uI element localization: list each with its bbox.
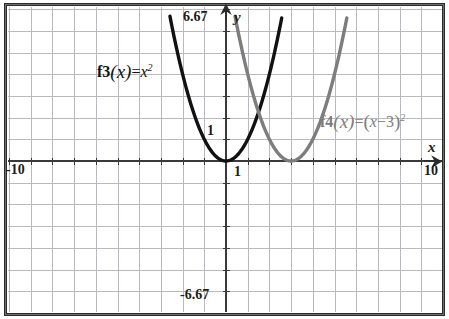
f3-arg: (x) — [110, 61, 131, 82]
graph-figure: y x 6.67 -6.67 1 -10 10 1 f3(x)=x2 f4(x)… — [0, 0, 449, 319]
f3-body: x — [140, 63, 147, 80]
f3-exponent: 2 — [148, 62, 153, 73]
curve-f4 — [235, 16, 347, 161]
y-unit-tick-label: 1 — [207, 124, 214, 138]
y-max-tick-label: 6.67 — [183, 10, 208, 24]
f4-exponent: 2 — [400, 112, 405, 123]
x-max-tick-label: 10 — [424, 164, 438, 178]
f4-name: f4 — [320, 113, 333, 130]
f3-name: f3 — [97, 63, 110, 80]
x-unit-tick-label: 1 — [234, 165, 241, 179]
x-min-tick-label: -10 — [6, 163, 25, 177]
y-axis-name: y — [234, 10, 241, 25]
f4-equation-label: f4(x)=(x−3)2 — [320, 112, 405, 131]
f4-arg: (x) — [333, 111, 354, 132]
f4-minus-three: −3 — [377, 113, 394, 130]
f3-equation-label: f3(x)=x2 — [97, 62, 153, 81]
parabola-curves — [8, 7, 442, 312]
curve-layer — [8, 7, 442, 312]
x-axis-name: x — [428, 140, 436, 155]
plot-area — [8, 7, 442, 312]
f4-body: x — [370, 113, 377, 130]
y-min-tick-label: -6.67 — [180, 288, 209, 302]
curve-f3 — [170, 16, 282, 161]
